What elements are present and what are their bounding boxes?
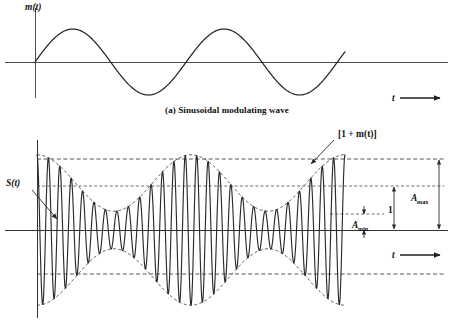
envelope-label: [1 + m(t)] [338, 129, 377, 140]
panel-a-y-axis-label: m(t) [25, 2, 41, 13]
dimension-a-min-subscript: min [358, 225, 369, 232]
panel-b-group: S(t) [1 + m(t)] A max 1 A min t [5, 129, 448, 318]
signal-label: S(t) [6, 178, 20, 189]
dimension-unity-label: 1 [388, 205, 393, 215]
figure-svg: m(t) t S(t) [1 + m(t)] [0, 0, 454, 323]
upper-envelope-curve [37, 155, 345, 211]
lower-envelope-curve [37, 249, 345, 305]
figure-root: m(t) t S(t) [1 + m(t)] [0, 0, 454, 323]
envelope-label-leader [311, 140, 334, 164]
panel-a-group: m(t) t [5, 2, 448, 103]
panel-b-x-axis-label: t [392, 250, 395, 260]
panel-a-caption: (a) Sinusoidal modulating wave [0, 105, 454, 115]
panel-a-x-axis-label: t [392, 93, 395, 103]
dimension-a-max-subscript: max [417, 198, 429, 205]
signal-label-leader [32, 190, 57, 219]
